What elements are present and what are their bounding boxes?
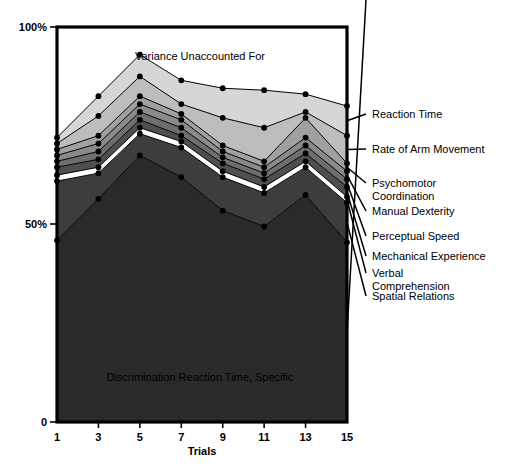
x-axis-ticks: 13579111315 [54,422,353,443]
data-point-marker [178,133,184,139]
data-point-marker [96,164,102,170]
data-point-marker [137,117,143,123]
data-point-marker [303,135,309,141]
x-axis-tick-label-11: 11 [258,431,270,443]
series-label-psychomotor-coordination: Psychomotor [372,177,437,189]
series-label-manual-dexterity: Manual Dexterity [372,205,455,217]
series-label-mechanical-experience: Mechanical Experience [372,250,486,262]
series-label-spatial-relations: Spatial Relations [372,290,455,302]
data-point-marker [303,164,309,170]
x-axis-tick-label-15: 15 [341,431,353,443]
data-point-marker [96,113,102,119]
data-point-marker [178,125,184,131]
y-axis-label-mid: 50% [25,218,47,230]
series-label-verbal-comprehension: Verbal [372,267,403,279]
data-point-marker [261,224,267,230]
data-point-marker [137,131,143,137]
data-point-marker [220,208,226,214]
data-point-marker [137,73,143,79]
callout-leader-line [347,114,366,121]
data-point-marker [303,192,309,198]
area-chart-svg: 100% 50% 0 13579111315 Trials Variance U… [0,0,523,464]
data-point-marker [220,149,226,155]
x-axis-tick-label-7: 7 [178,431,184,443]
data-point-marker [261,158,267,164]
data-point-marker [96,196,102,202]
data-point-marker [261,170,267,176]
data-point-marker [303,115,309,121]
data-point-marker [220,143,226,149]
data-point-marker [261,176,267,182]
data-point-marker [178,77,184,83]
data-point-marker [178,174,184,180]
x-axis-tick-label-5: 5 [137,431,143,443]
data-point-marker [261,164,267,170]
stacked-area-bands [57,55,347,422]
y-axis-label-top: 100% [19,21,47,33]
annotation-variance-unaccounted: Variance Unaccounted For [135,50,265,62]
data-point-marker [220,115,226,121]
callout-leader-line [347,192,366,256]
x-axis-tick-label-13: 13 [299,431,311,443]
data-point-marker [261,190,267,196]
data-point-marker [220,168,226,174]
data-point-marker [137,93,143,99]
data-point-marker [96,170,102,176]
series-label-reaction-time: Reaction Time [372,108,442,120]
data-point-marker [220,160,226,166]
data-point-marker [303,143,309,149]
chart-root: 100% 50% 0 13579111315 Trials Variance U… [0,0,523,464]
data-point-marker [220,174,226,180]
data-point-marker [303,151,309,157]
data-point-marker [96,156,102,162]
data-point-marker [178,111,184,117]
series-callouts: Reaction TimeRate of Arm MovementPsychom… [347,0,486,332]
data-point-marker [303,109,309,115]
series-label-line2: Coordination [372,190,434,202]
series-label-rate-of-arm-movement: Rate of Arm Movement [372,143,485,155]
data-point-marker [178,145,184,151]
data-point-marker [220,154,226,160]
x-axis-tick-label-1: 1 [54,431,60,443]
data-point-marker [96,149,102,155]
series-label-perceptual-speed: Perceptual Speed [372,230,459,242]
data-point-marker [137,125,143,131]
data-point-marker [261,87,267,93]
data-point-marker [220,85,226,91]
data-point-marker [178,101,184,107]
data-point-marker [137,109,143,115]
x-axis-tick-label-3: 3 [95,431,101,443]
data-point-marker [96,133,102,139]
annotation-discrimination-reaction-time: Discrimination Reaction Time, Specific [106,371,294,383]
data-point-marker [261,184,267,190]
data-point-marker [303,158,309,164]
data-point-marker [96,141,102,147]
data-point-marker [303,91,309,97]
data-point-marker [137,152,143,158]
data-point-marker [137,101,143,107]
x-axis-title: Trials [188,445,217,457]
y-axis-label-bottom: 0 [41,416,47,428]
data-point-marker [178,117,184,123]
x-axis-tick-label-9: 9 [220,431,226,443]
data-point-marker [178,139,184,145]
data-point-marker [96,93,102,99]
data-point-marker [261,125,267,131]
